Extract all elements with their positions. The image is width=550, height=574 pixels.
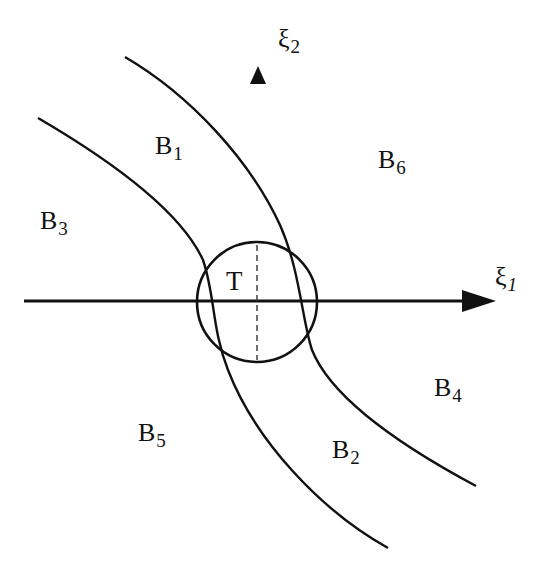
region-b1-subscript: 1 xyxy=(173,143,183,164)
diagram-svg xyxy=(0,0,550,574)
center-label-t: T xyxy=(226,268,243,295)
xi1-axis-label: ξ1 xyxy=(495,264,517,294)
region-b3-letter: B xyxy=(40,206,57,235)
region-b5-letter: B xyxy=(138,418,155,447)
diagram-canvas: ξ2 ξ1 T B1 B2 B3 B4 B5 B6 xyxy=(0,0,550,574)
region-b6-letter: B xyxy=(378,145,395,174)
region-b3-subscript: 3 xyxy=(58,218,68,239)
region-b4-letter: B xyxy=(434,373,451,402)
region-b5-subscript: 5 xyxy=(156,430,166,451)
upper-boundary-curve xyxy=(125,57,476,486)
region-label-b4: B4 xyxy=(434,375,462,405)
region-label-b6: B6 xyxy=(378,147,406,177)
region-label-b5: B5 xyxy=(138,420,166,450)
region-b6-subscript: 6 xyxy=(396,157,406,178)
xi2-subscript: 2 xyxy=(291,36,301,57)
region-label-b2: B2 xyxy=(332,437,360,467)
xi1-symbol: ξ xyxy=(495,262,507,291)
region-b1-letter: B xyxy=(155,131,172,160)
lower-boundary-curve xyxy=(38,118,388,548)
xi2-axis-label: ξ2 xyxy=(278,26,300,56)
region-b2-subscript: 2 xyxy=(350,447,360,468)
xi1-subscript: 1 xyxy=(508,274,518,295)
xi1-arrowhead-icon xyxy=(462,290,496,312)
region-b2-letter: B xyxy=(332,435,349,464)
xi2-arrowhead-icon xyxy=(250,66,266,84)
region-label-b1: B1 xyxy=(155,133,183,163)
xi2-symbol: ξ xyxy=(278,24,290,53)
region-b4-subscript: 4 xyxy=(452,385,462,406)
region-label-b3: B3 xyxy=(40,208,68,238)
